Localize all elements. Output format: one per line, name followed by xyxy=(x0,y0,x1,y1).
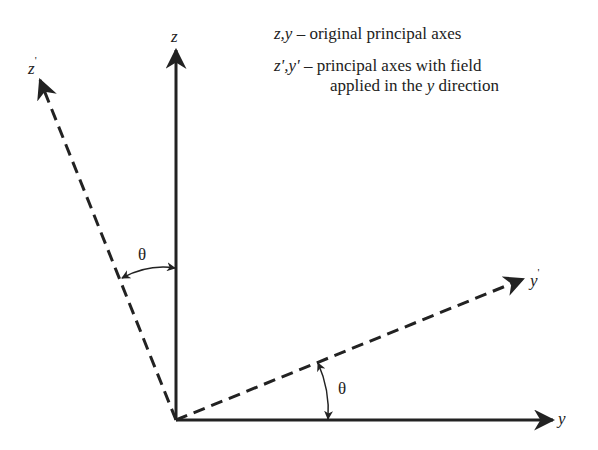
angle-arc-z xyxy=(122,267,175,278)
legend-original-axes: z,y – original principal axes xyxy=(274,24,499,44)
theta-label-y: θ xyxy=(338,380,346,397)
y-axis-label: y xyxy=(558,410,566,427)
z-prime-axis-label: z' xyxy=(28,55,37,77)
legend-field-axes-cont: applied in the y direction xyxy=(274,76,499,96)
z-axis-label: z xyxy=(171,28,178,45)
angle-arc-y xyxy=(318,363,328,419)
y-prime-axis xyxy=(176,279,523,420)
y-prime-axis-label: y' xyxy=(530,267,540,289)
principal-axes-diagram: z z' y' y θ θ z,y – original principal a… xyxy=(0,0,598,450)
theta-label-z: θ xyxy=(138,246,146,263)
z-prime-axis xyxy=(40,80,176,420)
legend: z,y – original principal axes z',y' – pr… xyxy=(274,24,499,96)
legend-field-axes: z',y' – principal axes with field xyxy=(274,56,499,76)
